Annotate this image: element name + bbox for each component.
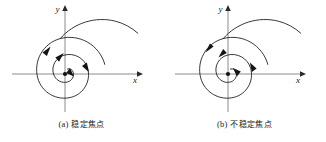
flow-arrow-b-2 [218, 49, 226, 58]
origin-point-b [226, 72, 230, 76]
y-axis-arrowhead-a [62, 5, 68, 11]
y-axis-arrowhead-b [225, 5, 231, 11]
panel-a: y x (a) 稳定焦点 [0, 0, 163, 142]
spiral-trajectory-a [37, 37, 105, 98]
panel-b: y x (b) 不稳定焦点 [163, 0, 326, 142]
flow-arrow-b-4 [233, 68, 241, 77]
x-axis-arrowhead-b [300, 71, 306, 77]
phase-portrait-a: y x [0, 0, 163, 120]
caption-b-text: 不稳定焦点 [230, 120, 272, 129]
spiral-tail-a [60, 20, 138, 39]
caption-a-text: 稳定焦点 [71, 120, 104, 129]
flow-arrow-b-1 [206, 43, 214, 52]
phase-portrait-b: y x [163, 0, 326, 120]
x-axis-arrowhead-a [137, 71, 143, 77]
flow-arrow-a-2 [55, 53, 63, 62]
y-axis-label-a: y [55, 4, 60, 14]
flow-arrow-a-3 [82, 63, 89, 72]
caption-b: (b) 不稳定焦点 [163, 118, 326, 131]
figure-container: y x (a) 稳定焦点 y [0, 0, 326, 142]
y-axis-label-b: y [218, 4, 223, 14]
origin-point-a [63, 72, 67, 76]
x-axis-label-a: x [132, 75, 137, 85]
caption-b-tag: (b) [217, 119, 228, 129]
caption-a-tag: (a) [58, 119, 68, 129]
caption-a: (a) 稳定焦点 [0, 118, 163, 131]
flow-arrow-a-1 [43, 47, 51, 56]
spiral-tail-b [223, 20, 301, 39]
x-axis-label-b: x [295, 75, 300, 85]
